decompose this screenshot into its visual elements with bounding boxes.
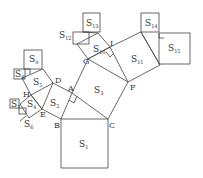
label-s2: S2 — [50, 98, 59, 109]
label-s12: S12 — [59, 30, 72, 41]
label-s14: S14 — [145, 18, 158, 29]
point-h: H — [23, 90, 30, 99]
label-s11: S11 — [131, 54, 144, 65]
point-f: F — [130, 83, 136, 92]
label-s1: S1 — [79, 139, 88, 150]
point-e: E — [40, 110, 46, 119]
label-s8: S8 — [15, 69, 24, 80]
label-s10: S10 — [93, 44, 106, 55]
label-s3: S3 — [94, 85, 103, 96]
label-s13: S13 — [86, 18, 99, 29]
pythagoras-tree-diagram: S1 S2 S3 S4 S5 S6 S7 S8 S9 S10 S11 S12 S… — [0, 0, 203, 178]
point-c: C — [109, 121, 115, 130]
label-s6: S6 — [24, 119, 33, 130]
point-a: A — [67, 84, 74, 93]
label-s5: S5 — [33, 77, 42, 88]
point-d: D — [55, 76, 61, 85]
label-s15: S15 — [168, 43, 181, 54]
point-i: I — [110, 39, 113, 48]
point-b: B — [54, 121, 60, 130]
label-s9: S9 — [29, 54, 38, 65]
point-g: G — [83, 57, 89, 66]
